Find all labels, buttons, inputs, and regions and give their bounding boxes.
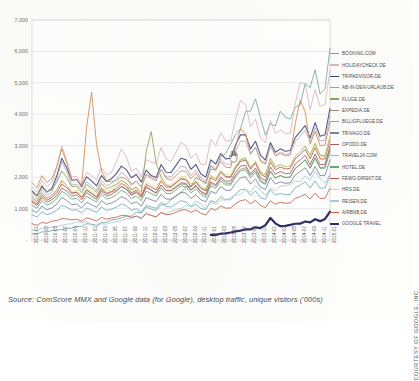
legend-item-label: TRAVEL24.COM	[342, 153, 377, 158]
courtesy-credit: COURTESY OF GOOGLE, INC.	[413, 288, 419, 380]
x-tick-label: 2012-11	[202, 226, 207, 243]
x-tick-label: 2010-07	[63, 226, 68, 243]
legend-item-label: BOOKING.COM	[342, 51, 376, 56]
legend-item[interactable]: AB-IN-DEN-URLAUB.DE	[330, 82, 410, 93]
legend-item[interactable]: TRAVEL24.COM	[330, 150, 410, 161]
y-tick-label: 6,000	[6, 48, 28, 54]
legend-item-label: HOLIDAYCHECK.DE	[342, 63, 386, 68]
x-tick-label: 2010-05	[53, 226, 58, 243]
x-tick-label: 2011-05	[113, 226, 118, 243]
chart-legend[interactable]: BOOKING.COMHOLIDAYCHECK.DETRIPADVISOR.DE…	[330, 48, 410, 230]
y-tick-label: 3,000	[6, 143, 28, 149]
x-tick-label: 2011-03	[103, 226, 108, 243]
legend-item[interactable]: HOLIDAYCHECK.DE	[330, 59, 410, 70]
legend-color-swatch	[330, 223, 339, 226]
legend-color-swatch	[330, 98, 339, 99]
legend-item[interactable]: HOTEL.DE	[330, 161, 410, 172]
legend-item[interactable]: HRS.DE	[330, 184, 410, 195]
legend-item[interactable]: BILLIGFLUEGE.DE	[330, 116, 410, 127]
x-tick-label: 2010-03	[44, 226, 49, 243]
legend-color-swatch	[330, 178, 339, 179]
x-tick-label: 2012-09	[193, 226, 198, 243]
legend-item-label: BILLIGFLUEGE.DE	[342, 119, 383, 124]
x-tick-label: 2013-03	[222, 226, 227, 243]
x-tick-label: 2013-05	[232, 226, 237, 243]
legend-item-label: AIRBNB.DE	[342, 210, 367, 215]
legend-color-swatch	[330, 189, 339, 190]
legend-color-swatch	[330, 64, 339, 65]
x-tick-label: 2013-11	[262, 226, 267, 243]
line-chart-plot[interactable]	[6, 6, 334, 288]
x-tick-label: 2010-11	[83, 226, 88, 243]
chart-figure: -1,0002,0003,0004,0005,0006,0007,000 201…	[6, 6, 334, 288]
x-tick-label: 2014-03	[282, 226, 287, 243]
plot-frame	[32, 20, 330, 240]
legend-color-swatch	[330, 212, 339, 213]
x-tick-label: 2013-09	[252, 226, 257, 243]
source-note: Source: ComScore MMX and Google data (fo…	[8, 295, 323, 304]
y-tick-label: 7,000	[6, 17, 28, 23]
legend-item[interactable]: BOOKING.COM	[330, 48, 410, 59]
legend-item[interactable]: AIRBNB.DE	[330, 207, 410, 218]
y-tick-label: 1,000	[6, 206, 28, 212]
legend-item-label: FEWO-DIREKT.DE	[342, 176, 382, 181]
legend-color-swatch	[330, 110, 339, 111]
legend-color-swatch	[330, 53, 339, 54]
y-tick-label: -	[6, 237, 28, 243]
x-tick-label: 2010-01	[34, 226, 39, 243]
x-tick-label: 2014-09	[312, 226, 317, 243]
legend-item-label: HOTEL.DE	[342, 165, 365, 170]
y-tick-label: 5,000	[6, 80, 28, 86]
x-tick-label: 2014-05	[292, 226, 297, 243]
legend-item-label: OPODO.DE	[342, 142, 367, 147]
legend-item-label: TRIPADVISOR.DE	[342, 74, 381, 79]
legend-color-swatch	[330, 87, 339, 88]
x-tick-label: 2012-05	[173, 226, 178, 243]
legend-item-label: TRIVAGO.DE	[342, 131, 370, 136]
legend-item[interactable]: OPODO.DE	[330, 139, 410, 150]
y-tick-label: 2,000	[6, 174, 28, 180]
legend-item-label: REISEN.DE	[342, 199, 367, 204]
legend-item-label: HRS.DE	[342, 187, 359, 192]
legend-item-label: EXPEDIA.DE	[342, 108, 370, 113]
x-tick-label: 2014-11	[322, 226, 327, 243]
x-tick-label: 2011-01	[93, 226, 98, 243]
x-tick-label: 2011-11	[143, 226, 148, 243]
legend-item-label: FLUGE.DE	[342, 97, 365, 102]
legend-item[interactable]: FEWO-DIREKT.DE	[330, 173, 410, 184]
x-tick-label: 2012-01	[153, 226, 158, 243]
x-tick-label: 2013-07	[242, 226, 247, 243]
legend-color-swatch	[330, 155, 339, 156]
x-tick-label: 2011-09	[133, 226, 138, 243]
legend-item-label: GOOGLE TRAVEL	[342, 221, 381, 226]
legend-color-swatch	[330, 144, 339, 145]
x-tick-label: 2010-09	[73, 226, 78, 243]
y-tick-label: 4,000	[6, 111, 28, 117]
legend-color-swatch	[330, 76, 339, 77]
x-tick-label: 2014-01	[272, 226, 277, 243]
legend-color-swatch	[330, 166, 339, 167]
legend-item[interactable]: REISEN.DE	[330, 195, 410, 206]
legend-item[interactable]: FLUGE.DE	[330, 93, 410, 104]
legend-color-swatch	[330, 132, 339, 133]
x-tick-label: 2011-07	[123, 226, 128, 243]
legend-color-swatch	[330, 200, 339, 201]
x-tick-label: 2013-01	[212, 226, 217, 243]
x-tick-label: 2014-07	[302, 226, 307, 243]
legend-item[interactable]: GOOGLE TRAVEL	[330, 218, 410, 229]
x-tick-label: 2012-03	[163, 226, 168, 243]
legend-color-swatch	[330, 121, 339, 122]
legend-item[interactable]: TRIVAGO.DE	[330, 127, 410, 138]
legend-item[interactable]: EXPEDIA.DE	[330, 105, 410, 116]
legend-item-label: AB-IN-DEN-URLAUB.DE	[342, 85, 394, 90]
legend-item[interactable]: TRIPADVISOR.DE	[330, 71, 410, 82]
x-tick-label: 2012-07	[183, 226, 188, 243]
